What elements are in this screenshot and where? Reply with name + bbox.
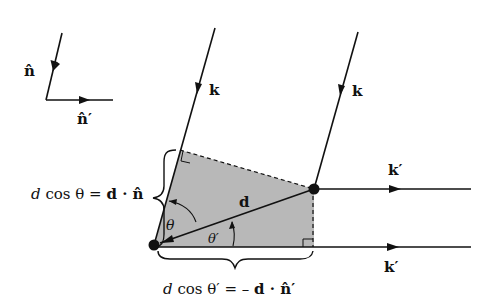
scattered-top-label: k′	[388, 161, 402, 179]
scattering-center-lower	[149, 240, 160, 251]
equation-d-cos-theta: d cos θ = d · n̂	[31, 185, 144, 203]
scattering-geometry-diagram: n̂ n̂′ k k k′ k′ d θ θ′	[0, 0, 496, 308]
bottom-brace	[158, 251, 313, 268]
equation-left-d: d	[31, 185, 41, 203]
n-hat-prime-label: n̂′	[77, 110, 92, 128]
scattered-bottom-label: k′	[384, 258, 398, 276]
incident-left-label: k	[209, 81, 220, 99]
theta-prime-label: θ′	[208, 231, 219, 246]
equation-bottom-d: d	[163, 280, 173, 298]
equation-bottom-rest: cos θ′ = –	[173, 280, 254, 298]
equation-d-cos-theta-prime: d cos θ′ = – d · n̂′	[163, 280, 295, 298]
incident-right-label: k	[352, 82, 363, 100]
scattering-center-upper	[309, 184, 320, 195]
scattered-bottom-arrowhead-icon	[387, 243, 399, 251]
incident-left-arrowhead-icon	[195, 82, 202, 94]
theta-label: θ	[166, 217, 175, 233]
incident-beam-right	[314, 32, 358, 189]
d-vector-label: d	[239, 193, 250, 211]
equation-left-vec: d · n̂	[106, 185, 143, 203]
n-hat-prime-arrowhead-icon	[79, 96, 90, 104]
scattered-top-arrowhead-icon	[389, 185, 401, 193]
n-hat-label: n̂	[24, 62, 35, 80]
incident-right-arrowhead-icon	[338, 84, 345, 96]
scattered-beam-top	[314, 185, 471, 193]
unit-vector-legend: n̂ n̂′	[24, 33, 113, 128]
equation-bottom-vec: d · n̂′	[254, 280, 295, 298]
equation-left-rest: cos θ =	[41, 185, 107, 203]
